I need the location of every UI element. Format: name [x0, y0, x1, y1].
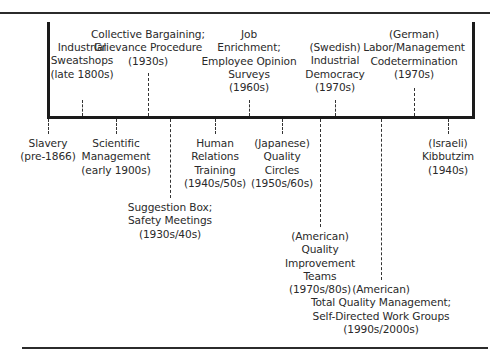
event-label-line: (American) — [311, 283, 451, 296]
event-label-line: Quality — [251, 150, 313, 163]
event-label-line: Employee Opinion — [201, 55, 296, 68]
event-label-line: Total Quality Management; — [311, 296, 451, 309]
event-label-line: (1970s) — [305, 81, 364, 94]
event-label-israeli-kibbutzim: (Israeli)Kibbutzim(1940s) — [422, 137, 474, 177]
event-label-line: (Japanese) — [251, 137, 313, 150]
event-label-line: (1950s/60s) — [251, 177, 313, 190]
event-label-line: (1940s/50s) — [184, 177, 246, 190]
event-label-line: Industrial — [305, 54, 364, 67]
event-label-line: (1940s) — [422, 164, 474, 177]
event-label-line: (1930s) — [91, 55, 205, 68]
connector-slavery — [48, 119, 49, 134]
connector-scientific-management — [116, 119, 117, 134]
connector-american-quality-improvement — [320, 119, 321, 227]
event-label-american-tqm: (American)Total Quality Management;Self-… — [311, 283, 451, 336]
event-label-line: Safety Meetings — [128, 214, 212, 227]
connector-israeli-kibbutzim — [448, 119, 449, 134]
connector-swedish-industrial-democracy — [335, 100, 336, 116]
connector-job-enrichment — [249, 100, 250, 116]
event-label-line: Scientific — [81, 137, 150, 150]
event-label-line: Job — [201, 28, 296, 41]
event-label-line: Management — [81, 150, 150, 163]
event-label-line: (Swedish) — [305, 41, 364, 54]
event-label-swedish-industrial-democracy: (Swedish)IndustrialDemocracy(1970s) — [305, 41, 364, 94]
event-label-line: Labor/Management — [363, 41, 465, 54]
event-label-line: (1990s/2000s) — [311, 323, 451, 336]
event-label-line: (1970s) — [363, 68, 465, 81]
event-label-line: Codetermination — [363, 55, 465, 68]
event-label-line: Grievance Procedure — [91, 41, 205, 54]
event-label-line: Human — [184, 137, 246, 150]
event-label-suggestion-box: Suggestion Box;Safety Meetings(1930s/40s… — [128, 201, 212, 241]
event-label-line: Quality — [285, 243, 355, 256]
event-label-line: Relations — [184, 150, 246, 163]
connector-sweatshops — [82, 100, 83, 116]
timeline-right-bar — [472, 22, 475, 119]
event-label-line: Kibbutzim — [422, 150, 474, 163]
event-label-slavery: Slavery(pre-1866) — [20, 137, 75, 164]
event-label-line: Suggestion Box; — [128, 201, 212, 214]
connector-japanese-quality-circles — [282, 119, 283, 134]
event-label-line: (German) — [363, 28, 465, 41]
event-label-line: (American) — [285, 230, 355, 243]
event-label-line: Training — [184, 164, 246, 177]
event-label-line: Self-Directed Work Groups — [311, 310, 451, 323]
event-label-job-enrichment: JobEnrichment;Employee OpinionSurveys(19… — [201, 28, 296, 94]
event-label-german-codetermination: (German)Labor/ManagementCodetermination(… — [363, 28, 465, 81]
event-label-line: Slavery — [20, 137, 75, 150]
top-rule — [0, 12, 490, 14]
event-label-collective-bargaining: Collective Bargaining;Grievance Procedur… — [91, 28, 205, 68]
connector-human-relations — [215, 119, 216, 134]
event-label-line: Improvement — [285, 257, 355, 270]
event-label-line: Collective Bargaining; — [91, 28, 205, 41]
event-label-line: Teams — [285, 270, 355, 283]
event-label-line: Circles — [251, 164, 313, 177]
event-label-line: (Israeli) — [422, 137, 474, 150]
event-label-line: (pre-1866) — [20, 150, 75, 163]
event-label-human-relations: HumanRelationsTraining(1940s/50s) — [184, 137, 246, 190]
connector-collective-bargaining — [148, 73, 149, 116]
event-label-line: (1930s/40s) — [128, 228, 212, 241]
event-label-line: (1960s) — [201, 81, 296, 94]
connector-german-codetermination — [414, 88, 415, 116]
event-label-line: Democracy — [305, 68, 364, 81]
event-label-line: Enrichment; — [201, 41, 296, 54]
event-label-line: Surveys — [201, 68, 296, 81]
bottom-rule — [22, 347, 488, 349]
connector-american-tqm — [381, 119, 382, 280]
event-label-japanese-quality-circles: (Japanese)QualityCircles(1950s/60s) — [251, 137, 313, 190]
connector-suggestion-box — [170, 119, 171, 198]
timeline-axis — [47, 116, 475, 119]
event-label-line: (late 1800s) — [50, 68, 113, 81]
event-label-scientific-management: ScientificManagement(early 1900s) — [81, 137, 150, 177]
event-label-line: (early 1900s) — [81, 164, 150, 177]
